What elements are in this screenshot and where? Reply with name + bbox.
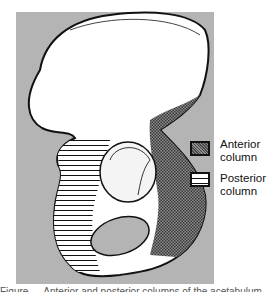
- legend-label-posterior: Posterior column: [220, 172, 266, 197]
- figure-caption: Figure — Anterior and posterior columns …: [0, 286, 275, 292]
- legend-label-anterior: Anterior column: [220, 138, 260, 163]
- legend-swatch-posterior: [190, 172, 210, 187]
- legend-swatch-anterior: [190, 141, 210, 156]
- acetabulum: [100, 142, 156, 202]
